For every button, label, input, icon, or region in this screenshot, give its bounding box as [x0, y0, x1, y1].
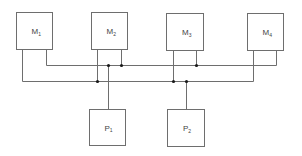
memory-module-2: M2: [92, 13, 128, 50]
processor-2: P2: [168, 110, 205, 147]
memory-module-1: M1: [17, 13, 53, 50]
junction-dot: [120, 64, 123, 67]
memory-module-3: M3: [167, 14, 204, 51]
processor-1: P1: [90, 110, 126, 146]
junction-dot: [195, 64, 198, 67]
junction-dot: [172, 80, 175, 83]
multiprocessor-bus-diagram: M1M2M3M4P1P2: [0, 0, 302, 156]
junction-dot: [185, 80, 188, 83]
boxes: M1M2M3M4P1P2: [17, 13, 284, 147]
junction-dot: [107, 64, 110, 67]
junction-dots: [96, 64, 198, 83]
wires: [23, 50, 277, 110]
memory-module-4: M4: [248, 14, 284, 51]
junction-dot: [96, 80, 99, 83]
